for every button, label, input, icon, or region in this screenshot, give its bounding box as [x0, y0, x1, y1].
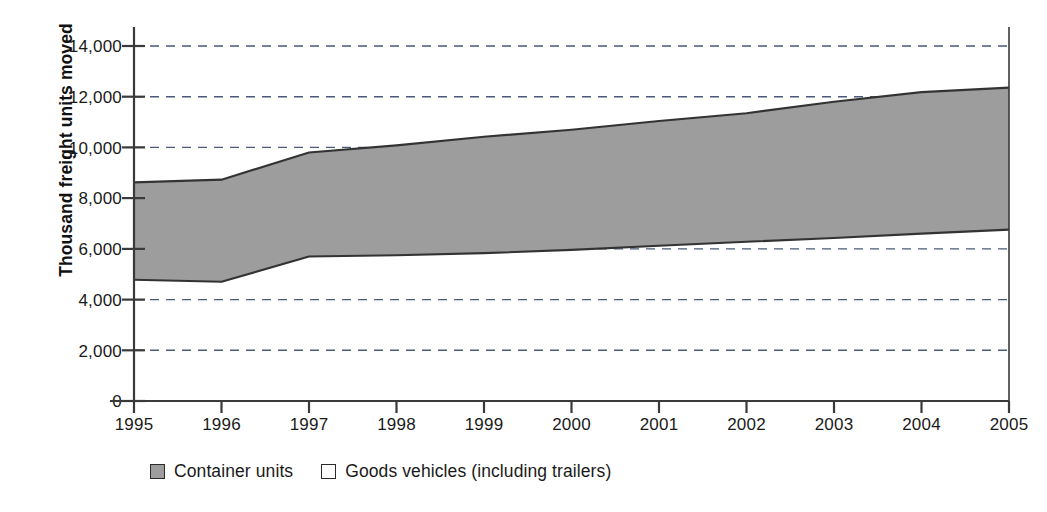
x-tick-label-2000: 2000	[552, 415, 591, 435]
x-tick-label-1995: 1995	[115, 415, 154, 435]
legend-swatch-icon-goods-vehicles	[321, 464, 336, 479]
x-tick-label-2004: 2004	[902, 415, 941, 435]
x-tick-label-1997: 1997	[290, 415, 329, 435]
chart-legend: Container units Goods vehicles (includin…	[150, 461, 611, 482]
legend-swatch-icon-container-units	[150, 464, 165, 479]
x-tick-label-1998: 1998	[377, 415, 416, 435]
x-tick-label-1999: 1999	[465, 415, 504, 435]
legend-label-goods-vehicles: Goods vehicles (including trailers)	[345, 461, 611, 482]
legend-label-container-units: Container units	[174, 461, 293, 482]
x-tick-mark-group	[134, 401, 1009, 413]
x-tick-label-2003: 2003	[815, 415, 854, 435]
container-units-band	[134, 88, 1009, 282]
x-tick-label-2001: 2001	[640, 415, 679, 435]
x-tick-label-2002: 2002	[727, 415, 766, 435]
legend-item-goods-vehicles[interactable]: Goods vehicles (including trailers)	[321, 461, 611, 482]
x-tick-label-1996: 1996	[202, 415, 241, 435]
legend-item-container-units[interactable]: Container units	[150, 461, 293, 482]
x-tick-label-2005: 2005	[990, 415, 1029, 435]
freight-units-area-chart: Thousand freight units moved 14,000 12,0…	[0, 0, 1047, 512]
x-axis-tick-label-group: 1995199619971998199920002001200220032004…	[0, 415, 1047, 445]
